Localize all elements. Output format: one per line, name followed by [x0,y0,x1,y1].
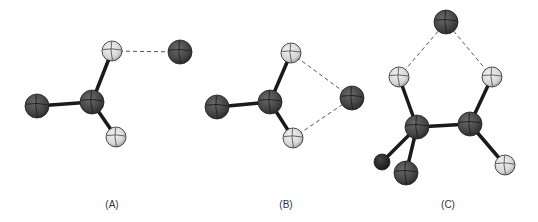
panel-a-label: (A) [105,199,118,210]
heavy-atom [80,90,104,114]
heavy-atom [340,86,364,110]
molecular-models-figure: (A) (B) (C) [0,0,538,222]
panel-b-label: (B) [279,199,292,210]
panel-c-label: (C) [441,199,455,210]
hydrogen-atom [283,128,303,148]
hydrogen-atom [106,127,126,147]
panel-c [374,10,515,185]
panel-a [25,40,192,147]
heavy-atom [394,161,418,185]
heavy-atom [205,95,229,119]
heavy-atom [25,94,49,118]
heavy-atom [374,154,390,170]
hydrogen-atom [102,41,122,61]
hydrogen-atom [495,155,515,175]
heavy-atom [458,112,482,136]
heavy-atom [405,115,429,139]
panel-b [205,43,364,148]
heavy-atom [434,10,458,34]
hydrogen-atom [482,67,502,87]
hydrogen-atom [389,67,409,87]
heavy-atom [258,90,282,114]
hydrogen-atom [281,43,301,63]
heavy-atom [168,40,192,64]
